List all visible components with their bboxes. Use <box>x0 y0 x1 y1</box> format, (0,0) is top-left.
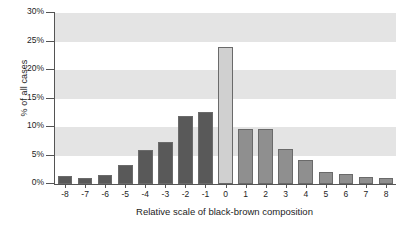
bar-slot <box>115 13 135 184</box>
x-axis-tick-mark <box>366 184 367 188</box>
x-axis-tick-mark <box>286 184 287 188</box>
x-axis-tick: 1 <box>236 184 256 208</box>
x-axis-tick-label: 0 <box>216 189 236 199</box>
x-axis-tick: 7 <box>356 184 376 208</box>
bar[interactable] <box>238 129 253 184</box>
bar[interactable] <box>258 129 273 184</box>
bar[interactable] <box>98 175 113 184</box>
bar[interactable] <box>339 174 354 184</box>
x-axis-tick: 0 <box>216 184 236 208</box>
bar-slot <box>256 13 276 184</box>
bar-slot <box>135 13 155 184</box>
x-axis-tick-label: -5 <box>115 189 135 199</box>
bar-series <box>55 13 396 184</box>
x-axis-tick-label: -7 <box>75 189 95 199</box>
bar-slot <box>175 13 195 184</box>
y-axis-tick: 20% <box>46 69 55 70</box>
x-axis-tick: -7 <box>75 184 95 208</box>
x-axis-tick-mark <box>226 184 227 188</box>
x-axis-tick-label: 8 <box>376 189 396 199</box>
chart-figure: % of all cases 0%5%10%15%20%25%30% -8-7-… <box>0 0 410 228</box>
y-axis-tick-label: 25% <box>27 35 44 45</box>
x-axis-tick-label: -4 <box>135 189 155 199</box>
x-axis-tick-mark <box>105 184 106 188</box>
x-axis-tick: 2 <box>256 184 276 208</box>
x-axis-tick: -2 <box>175 184 195 208</box>
y-axis-tick: 30% <box>46 12 55 13</box>
x-axis-tick: 5 <box>316 184 336 208</box>
y-axis-tick: 5% <box>46 155 55 156</box>
x-axis-tick-mark <box>65 184 66 188</box>
bar[interactable] <box>298 160 313 184</box>
bar[interactable] <box>198 112 213 184</box>
x-axis-tick-label: 1 <box>236 189 256 199</box>
bar[interactable] <box>118 165 133 184</box>
bar[interactable] <box>218 47 233 184</box>
y-axis-tick: 15% <box>46 98 55 99</box>
x-axis-tick-label: 5 <box>316 189 336 199</box>
x-axis-tick-label: 6 <box>336 189 356 199</box>
bar[interactable] <box>58 176 73 184</box>
bar[interactable] <box>138 150 153 184</box>
x-axis-tick-mark <box>346 184 347 188</box>
x-axis-tick: -3 <box>155 184 175 208</box>
y-axis-tick-label: 5% <box>32 149 44 159</box>
y-axis-tick-label: 10% <box>27 120 44 130</box>
bar-slot <box>296 13 316 184</box>
x-axis-tick: -6 <box>95 184 115 208</box>
x-axis-tick: -5 <box>115 184 135 208</box>
y-axis-tick-label: 20% <box>27 63 44 73</box>
x-axis-tick-mark <box>205 184 206 188</box>
bar-slot <box>55 13 75 184</box>
y-axis-tick-label: 0% <box>32 177 44 187</box>
x-axis-tick-label: -2 <box>175 189 195 199</box>
y-axis-tick: 10% <box>46 126 55 127</box>
x-axis-tick: 3 <box>276 184 296 208</box>
x-axis-tick-label: -6 <box>95 189 115 199</box>
y-axis-tick: 25% <box>46 41 55 42</box>
x-axis-tick-mark <box>386 184 387 188</box>
bar[interactable] <box>359 177 374 184</box>
x-axis-tick: -4 <box>135 184 155 208</box>
y-axis-tick-label: 15% <box>27 92 44 102</box>
x-axis-tick-label: 4 <box>296 189 316 199</box>
x-axis-tick-label: 7 <box>356 189 376 199</box>
bar-slot <box>195 13 215 184</box>
x-axis-tick-label: -8 <box>55 189 75 199</box>
bar-slot <box>316 13 336 184</box>
bar-slot <box>75 13 95 184</box>
x-axis-tick-mark <box>185 184 186 188</box>
x-axis-tick-label: -3 <box>155 189 175 199</box>
x-axis-tick-label: 2 <box>256 189 276 199</box>
x-axis-tick-mark <box>326 184 327 188</box>
x-axis-tick: 6 <box>336 184 356 208</box>
x-axis-tick-mark <box>85 184 86 188</box>
bar-slot <box>276 13 296 184</box>
x-axis-tick-label: -1 <box>195 189 215 199</box>
bar-slot <box>336 13 356 184</box>
bar-slot <box>376 13 396 184</box>
x-axis-tick: -8 <box>55 184 75 208</box>
bar-slot <box>216 13 236 184</box>
x-axis-tick-label: 3 <box>276 189 296 199</box>
x-axis-tick: -1 <box>195 184 215 208</box>
bar[interactable] <box>278 149 293 184</box>
x-axis-tick-mark <box>266 184 267 188</box>
plot-area: 0%5%10%15%20%25%30% -8-7-6-5-4-3-2-10123… <box>54 13 396 185</box>
x-axis-tick-mark <box>145 184 146 188</box>
x-axis-ticks: -8-7-6-5-4-3-2-1012345678 <box>55 184 396 208</box>
x-axis-tick-mark <box>246 184 247 188</box>
x-axis-tick-mark <box>306 184 307 188</box>
bar[interactable] <box>158 142 173 184</box>
y-axis-tick-label: 30% <box>27 6 44 16</box>
bar-slot <box>95 13 115 184</box>
bar[interactable] <box>319 172 334 184</box>
y-axis-tick: 0% <box>46 183 55 184</box>
bar-slot <box>356 13 376 184</box>
bar[interactable] <box>178 116 193 184</box>
x-axis-tick-mark <box>165 184 166 188</box>
x-axis-tick-mark <box>125 184 126 188</box>
x-axis-tick: 4 <box>296 184 316 208</box>
bar-slot <box>155 13 175 184</box>
bar-slot <box>236 13 256 184</box>
